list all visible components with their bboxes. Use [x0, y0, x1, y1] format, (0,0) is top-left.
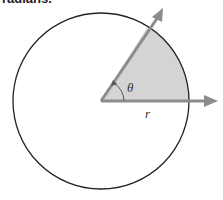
horizontal-arrowhead-icon [204, 95, 218, 107]
radius-label: r [145, 106, 151, 121]
circle-sector-diagram: θ r [0, 0, 223, 200]
theta-label: θ [127, 80, 134, 95]
